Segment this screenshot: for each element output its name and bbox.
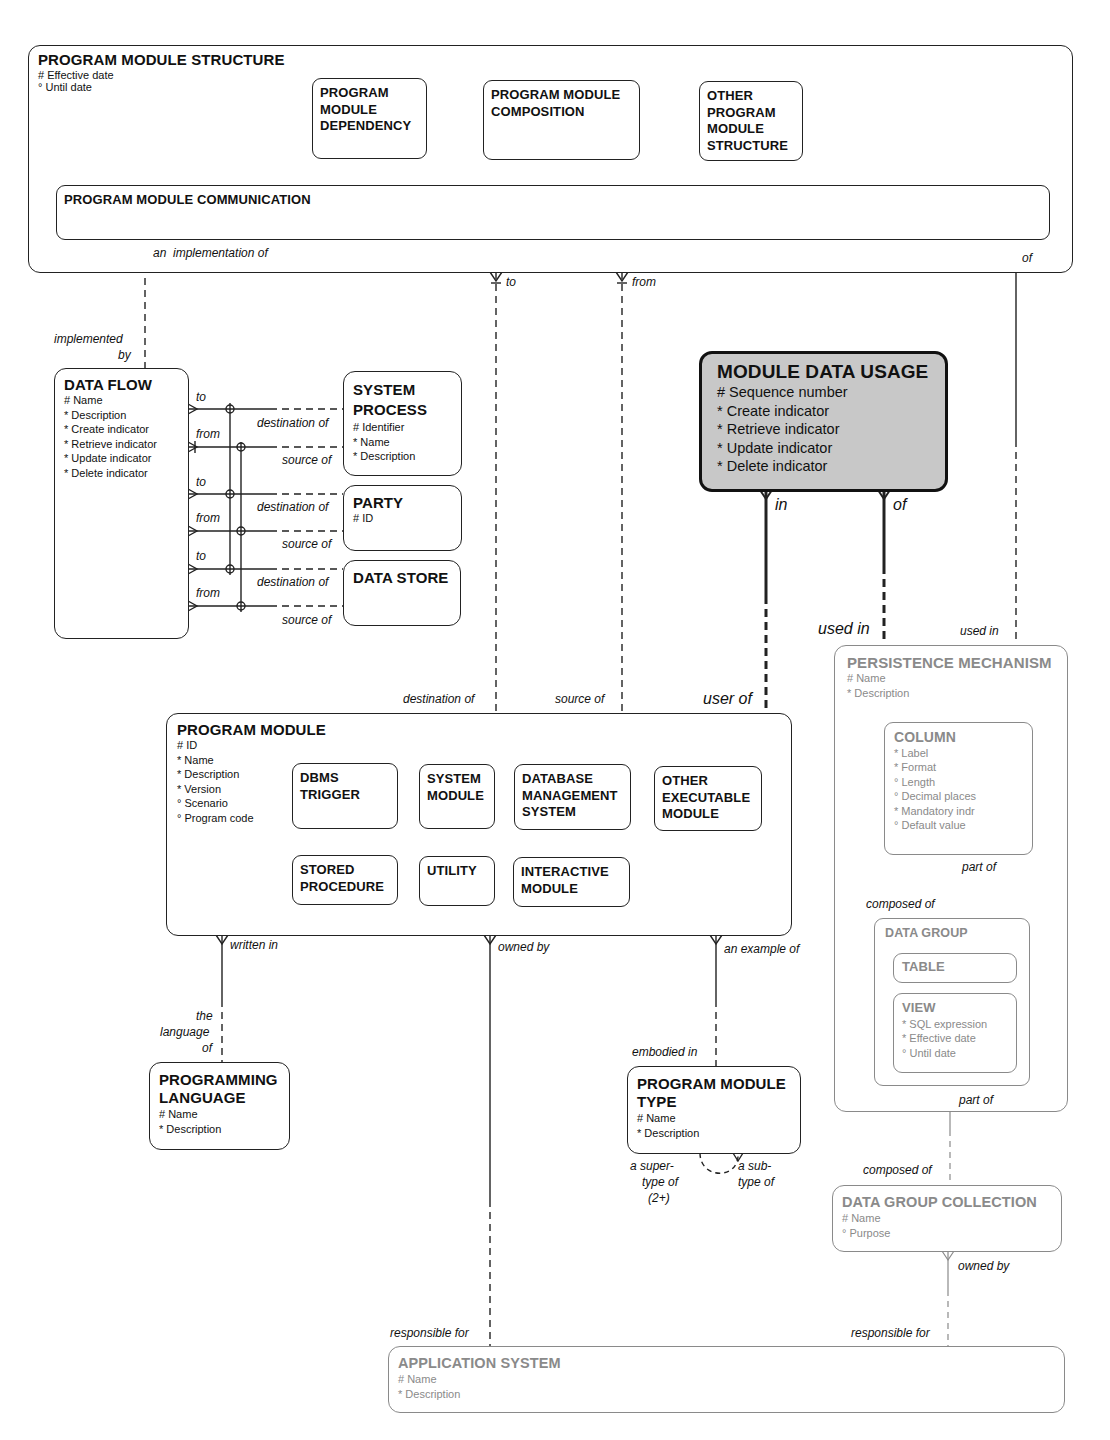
subtype-database-management-system[interactable]: DATABASE MANAGEMENT SYSTEM bbox=[514, 764, 631, 830]
label-destination-of: destination of bbox=[257, 500, 328, 514]
subtype-interactive-module[interactable]: INTERACTIVE MODULE bbox=[513, 857, 630, 907]
entity-title: PROGRAM MODULE COMPOSITION bbox=[491, 87, 633, 120]
entity-module-data-usage[interactable]: MODULE DATA USAGE # Sequence number * Cr… bbox=[699, 351, 948, 492]
label-type-of: type of bbox=[642, 1175, 678, 1189]
entity-data-store[interactable]: DATA STORE bbox=[343, 560, 461, 626]
entity-program-module-type[interactable]: PROGRAM MODULE TYPE # Name * Description bbox=[627, 1066, 801, 1154]
attribute: # Identifier bbox=[353, 420, 452, 435]
subtype-dbms-trigger[interactable]: DBMS TRIGGER bbox=[292, 763, 398, 829]
label-part-of: part of bbox=[962, 860, 996, 874]
subtype-utility[interactable]: UTILITY bbox=[419, 856, 495, 906]
label-from: from bbox=[196, 586, 220, 600]
label-an-example-of: an example of bbox=[724, 942, 799, 956]
attribute: * Create indicator bbox=[717, 402, 930, 421]
label-composed-of: composed of bbox=[866, 897, 935, 911]
entity-title: PARTY bbox=[353, 494, 452, 511]
label-source-of: source of bbox=[282, 613, 331, 627]
label-language: language bbox=[160, 1025, 209, 1039]
subtype-other-executable-module[interactable]: OTHER EXECUTABLE MODULE bbox=[654, 766, 762, 831]
attribute: * Description bbox=[159, 1122, 280, 1137]
attribute: # Name bbox=[637, 1111, 791, 1126]
label-of: of bbox=[1022, 251, 1032, 265]
attribute: * SQL expression bbox=[902, 1017, 1008, 1032]
entity-title: DATA FLOW bbox=[64, 376, 179, 393]
label-from: from bbox=[632, 275, 656, 289]
entity-title: VIEW bbox=[902, 1000, 1008, 1017]
entity-application-system[interactable]: APPLICATION SYSTEM # Name * Description bbox=[388, 1346, 1065, 1413]
entity-title: STORED PROCEDURE bbox=[300, 862, 392, 895]
subtype-program-module-dependency[interactable]: PROGRAM MODULE DEPENDENCY bbox=[312, 78, 427, 159]
attribute: * Description bbox=[847, 686, 1055, 701]
attribute: * Retrieve indicator bbox=[64, 437, 179, 452]
attribute: # Sequence number bbox=[717, 383, 930, 402]
label-source-of: source of bbox=[282, 453, 331, 467]
attribute: # ID bbox=[177, 738, 781, 753]
attribute: * Effective date bbox=[902, 1031, 1008, 1046]
label-a-sub: a sub- bbox=[738, 1159, 771, 1173]
entity-column[interactable]: COLUMN * Label * Format ° Length ° Decim… bbox=[884, 722, 1033, 855]
label-of: of bbox=[202, 1041, 212, 1055]
label-two-plus: (2+) bbox=[648, 1191, 670, 1205]
label-to: to bbox=[196, 390, 206, 404]
label-an-implementation-of: an implementation of bbox=[153, 246, 268, 260]
attribute: * Retrieve indicator bbox=[717, 420, 930, 439]
entity-title: PERSISTENCE MECHANISM bbox=[847, 654, 1055, 671]
attribute: * Label bbox=[894, 746, 1023, 761]
entity-data-group-collection[interactable]: DATA GROUP COLLECTION # Name ° Purpose bbox=[832, 1185, 1062, 1252]
entity-title: PROGRAM MODULE COMMUNICATION bbox=[64, 192, 1042, 209]
subtype-program-module-composition[interactable]: PROGRAM MODULE COMPOSITION bbox=[483, 80, 640, 160]
entity-data-flow[interactable]: DATA FLOW # Name * Description * Create … bbox=[54, 368, 189, 639]
label-to: to bbox=[506, 275, 516, 289]
entity-title: APPLICATION SYSTEM bbox=[398, 1355, 1055, 1372]
attribute: * Description bbox=[637, 1126, 791, 1141]
attribute: # Name bbox=[842, 1211, 1052, 1226]
label-source-of: source of bbox=[282, 537, 331, 551]
entity-title: PROGRAM MODULE bbox=[177, 721, 781, 738]
label-owned-by: owned by bbox=[958, 1259, 1009, 1273]
subtype-program-module-communication[interactable]: PROGRAM MODULE COMMUNICATION bbox=[56, 185, 1050, 240]
label-responsible-for: responsible for bbox=[390, 1326, 469, 1340]
entity-system-process[interactable]: SYSTEM PROCESS # Identifier * Name * Des… bbox=[343, 371, 462, 476]
label-the: the bbox=[196, 1009, 213, 1023]
subtype-view[interactable]: VIEW * SQL expression * Effective date °… bbox=[893, 993, 1017, 1073]
label-source-of: source of bbox=[555, 692, 604, 706]
attribute: * Description bbox=[353, 449, 452, 464]
attribute: * Delete indicator bbox=[717, 457, 930, 476]
attribute: # Name bbox=[64, 393, 179, 408]
entity-title: DBMS TRIGGER bbox=[300, 770, 360, 803]
label-in: in bbox=[775, 496, 787, 514]
subtype-stored-procedure[interactable]: STORED PROCEDURE bbox=[292, 855, 398, 905]
label-by: by bbox=[118, 348, 131, 362]
label-used-in: used in bbox=[960, 624, 999, 638]
attribute: * Update indicator bbox=[64, 451, 179, 466]
entity-title: UTILITY bbox=[427, 863, 487, 880]
label-type-of: type of bbox=[738, 1175, 774, 1189]
subtype-system-module[interactable]: SYSTEM MODULE bbox=[419, 764, 495, 829]
entity-programming-language[interactable]: PROGRAMMING LANGUAGE # Name * Descriptio… bbox=[149, 1062, 290, 1150]
label-user-of: user of bbox=[703, 690, 752, 708]
entity-title: PROGRAMMING LANGUAGE bbox=[159, 1071, 280, 1107]
entity-title: DATA GROUP bbox=[885, 925, 1019, 942]
entity-title: DATA GROUP COLLECTION bbox=[842, 1194, 1052, 1211]
attribute: # ID bbox=[353, 511, 452, 526]
subtype-table[interactable]: TABLE bbox=[893, 953, 1017, 983]
label-written-in: written in bbox=[230, 938, 278, 952]
label-to: to bbox=[196, 549, 206, 563]
attribute: ° Length bbox=[894, 775, 1023, 790]
entity-title: MODULE DATA USAGE bbox=[717, 361, 930, 383]
entity-title: DATABASE MANAGEMENT SYSTEM bbox=[522, 771, 623, 821]
attribute: * Format bbox=[894, 760, 1023, 775]
attribute: # Name bbox=[159, 1107, 280, 1122]
subtype-other-program-module-structure[interactable]: OTHER PROGRAM MODULE STRUCTURE bbox=[699, 81, 803, 161]
label-from: from bbox=[196, 427, 220, 441]
attribute: * Description bbox=[64, 408, 179, 423]
label-from: from bbox=[196, 511, 220, 525]
attribute: ° Until date bbox=[902, 1046, 1008, 1061]
attribute: * Name bbox=[353, 435, 452, 450]
attribute: * Delete indicator bbox=[64, 466, 179, 481]
entity-party[interactable]: PARTY # ID bbox=[343, 485, 462, 551]
entity-title: INTERACTIVE MODULE bbox=[521, 864, 621, 897]
entity-title: OTHER EXECUTABLE MODULE bbox=[662, 773, 754, 823]
label-to: to bbox=[196, 475, 206, 489]
entity-title: COLUMN bbox=[894, 729, 1023, 746]
